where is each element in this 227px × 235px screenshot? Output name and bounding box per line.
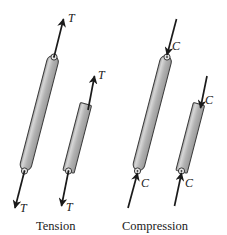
pin-center-top [166,56,168,58]
caption-tension: Tension [36,219,76,233]
statics-figure: T T T T Tension [0,0,227,235]
force-label-compression-bottom-short: C [185,176,194,190]
caption-compression: Compression [122,219,189,233]
pin-center-bottom [181,170,183,172]
force-label-compression-top-short: C [205,93,214,107]
force-label-compression-bottom-long: C [141,176,150,190]
force-label-compression-top-long: C [172,39,181,53]
figure-canvas: T T T T Tension [0,0,227,235]
pin-center-bottom [137,170,139,172]
